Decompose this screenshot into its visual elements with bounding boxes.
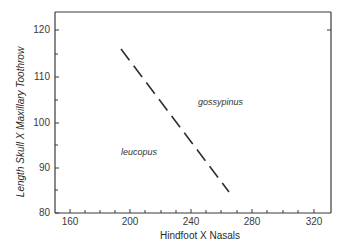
y-ticks [55,30,331,213]
x-axis-title: Hindfoot X Nasals [160,230,240,241]
y-tick-label: 120 [33,24,50,35]
y-tick-label: 80 [39,207,51,218]
leucopus-label: leucopus [121,147,158,157]
y-axis-title: Length Skull X Maxillary Toothrow [15,46,26,197]
gossypinus-label: gossypinus [198,97,244,107]
x-tick-label: 160 [62,216,79,227]
x-tick-label: 200 [122,216,139,227]
x-tick-label: 240 [183,216,200,227]
x-tick-label: 280 [244,216,261,227]
x-tick-label: 320 [306,216,323,227]
plot-frame [55,12,331,213]
boundary-line [121,49,229,192]
chart-canvas: 80 90 100 110 120 160 200 240 280 320 Hi… [0,0,347,246]
y-tick-label: 110 [34,71,50,82]
y-tick-label: 100 [33,117,50,128]
y-tick-label: 90 [39,162,51,173]
x-tick-labels: 160 200 240 280 320 [62,216,323,227]
y-tick-labels: 80 90 100 110 120 [33,24,50,218]
